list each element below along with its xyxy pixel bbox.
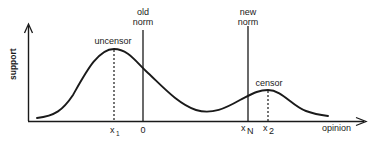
tick-x1-base: x [110,125,115,135]
tick-xN: x N [241,123,254,136]
tick-x1: x 1 [110,125,120,137]
old-norm-label-line1: old [137,7,149,17]
new-norm-label-line2: norm [238,17,259,27]
support-curve [37,49,328,118]
tick-x2-sub: 2 [269,126,274,136]
new-norm-label-line1: new [240,7,257,17]
opinion-support-diagram: support old norm new norm uncensor censo… [0,0,379,141]
uncensor-label: uncensor [94,36,131,46]
censor-label: censor [255,78,282,88]
tick-x2: x 2 [263,123,274,136]
tick-zero: 0 [140,125,145,135]
y-axis-label: support [8,48,18,80]
x-axis-label: opinion [322,123,351,133]
y-axis [25,24,33,121]
x-axis [28,118,366,126]
old-norm-label-line2: norm [133,17,154,27]
tick-x2-base: x [263,123,268,133]
tick-xN-sub: N [247,126,254,136]
tick-x1-sub: 1 [116,130,120,137]
tick-xN-base: x [241,123,246,133]
